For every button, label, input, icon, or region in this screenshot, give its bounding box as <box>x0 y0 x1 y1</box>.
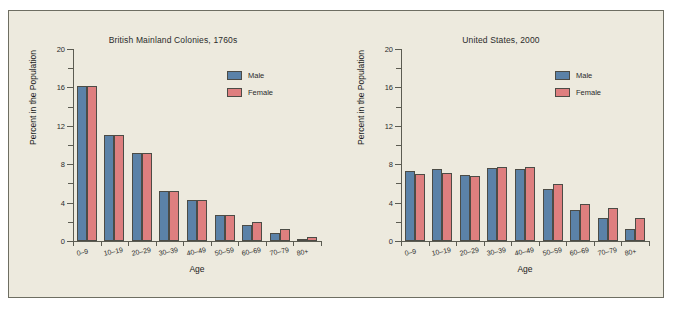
bar-female <box>197 200 207 241</box>
y-tick-minor <box>68 222 73 223</box>
y-tick <box>67 49 73 50</box>
x-tick <box>429 241 430 246</box>
chart-title-left: British Mainland Colonies, 1760s <box>9 35 337 45</box>
chart-title-right: United States, 2000 <box>337 35 665 45</box>
y-tick-label: 12 <box>57 121 65 130</box>
x-tick-label: 40–49 <box>186 246 206 257</box>
y-tick-label: 4 <box>389 198 393 207</box>
x-tick <box>321 241 322 246</box>
legend-swatch-female-icon <box>555 88 570 97</box>
bar-male <box>297 239 307 241</box>
y-tick-label: 20 <box>57 45 65 54</box>
x-tick-label: 70–79 <box>597 246 617 257</box>
x-tick-label: 50–59 <box>542 246 562 257</box>
bar-female <box>142 153 152 241</box>
x-tick <box>649 241 650 246</box>
bar-male <box>515 169 525 241</box>
y-tick <box>67 203 73 204</box>
legend-swatch-female-icon <box>227 88 242 97</box>
bar-male <box>132 153 142 241</box>
x-tick-label: 80+ <box>624 248 637 257</box>
bar-female <box>225 215 235 241</box>
y-tick-minor <box>68 107 73 108</box>
plot-area-right: 0481216200–910–1920–2930–3940–4950–5960–… <box>401 49 649 241</box>
x-tick <box>211 241 212 246</box>
bar-male <box>270 233 280 241</box>
legend-label-female: Female <box>576 88 601 97</box>
chart-panel-left: British Mainland Colonies, 1760s Percent… <box>9 11 337 299</box>
bar-female <box>252 222 262 241</box>
y-tick <box>67 164 73 165</box>
x-tick-label: 70–79 <box>269 246 289 257</box>
y-tick <box>395 87 401 88</box>
y-tick <box>395 164 401 165</box>
bar-female <box>442 173 452 241</box>
x-tick-label: 20–29 <box>459 246 479 257</box>
y-tick-label: 0 <box>61 237 65 246</box>
bar-female <box>87 86 97 241</box>
bar-male <box>215 215 225 241</box>
y-tick <box>67 126 73 127</box>
x-tick <box>128 241 129 246</box>
bar-male <box>187 200 197 241</box>
y-tick-label: 12 <box>385 121 393 130</box>
x-tick-label: 20–29 <box>131 246 151 257</box>
legend-label-female: Female <box>248 88 273 97</box>
y-tick-minor <box>68 145 73 146</box>
x-tick <box>401 241 402 246</box>
y-tick-label: 16 <box>385 83 393 92</box>
y-tick <box>395 126 401 127</box>
legend-item-male: Male <box>227 69 273 82</box>
bar-male <box>104 135 114 241</box>
x-tick-label: 10–19 <box>431 246 451 257</box>
bar-female <box>553 184 563 241</box>
bar-male <box>242 225 252 241</box>
x-tick-label: 30–39 <box>158 246 178 257</box>
bar-female <box>497 167 507 241</box>
figure-panel: British Mainland Colonies, 1760s Percent… <box>8 10 664 298</box>
x-tick-label: 80+ <box>296 248 309 257</box>
x-tick <box>511 241 512 246</box>
x-tick <box>539 241 540 246</box>
chart-panel-right: United States, 2000 Percent in the Popul… <box>337 11 665 299</box>
x-tick <box>456 241 457 246</box>
y-tick-minor <box>68 68 73 69</box>
x-axis-line-left <box>73 241 322 242</box>
x-tick <box>156 241 157 246</box>
x-axis-label-left: Age <box>73 264 321 274</box>
bar-male <box>570 210 580 241</box>
legend-label-male: Male <box>576 71 592 80</box>
x-tick <box>484 241 485 246</box>
y-tick-label: 0 <box>389 237 393 246</box>
y-tick-minor <box>396 107 401 108</box>
bar-female <box>280 229 290 241</box>
bar-female <box>470 176 480 241</box>
x-tick <box>266 241 267 246</box>
bar-male <box>598 218 608 241</box>
x-tick <box>73 241 74 246</box>
bar-male <box>405 171 415 241</box>
bar-male <box>460 175 470 241</box>
x-axis-label-right: Age <box>401 264 649 274</box>
bar-female <box>525 167 535 241</box>
y-tick-label: 16 <box>57 83 65 92</box>
legend-item-male: Male <box>555 69 601 82</box>
bar-female <box>169 191 179 241</box>
plot-area-left: 0481216200–910–1920–2930–3940–4950–5960–… <box>73 49 321 241</box>
bar-male <box>625 229 635 241</box>
x-tick <box>594 241 595 246</box>
bar-male <box>159 191 169 241</box>
y-axis-label-left: Percent in the Population <box>28 50 38 145</box>
x-tick <box>183 241 184 246</box>
x-tick-label: 60–69 <box>241 246 261 257</box>
y-tick-minor <box>396 222 401 223</box>
bar-male <box>543 189 553 241</box>
x-tick-label: 30–39 <box>486 246 506 257</box>
y-axis-line-right <box>401 49 402 242</box>
x-tick-label: 0–9 <box>404 248 417 257</box>
bar-female <box>580 204 590 241</box>
x-tick-label: 60–69 <box>569 246 589 257</box>
y-tick-label: 8 <box>61 160 65 169</box>
legend-left: Male Female <box>227 69 273 103</box>
legend-label-male: Male <box>248 71 264 80</box>
